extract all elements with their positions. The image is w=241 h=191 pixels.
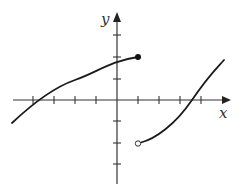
closed-endpoint-dot <box>135 54 141 60</box>
x-axis-arrow-icon <box>222 96 231 104</box>
x-axis-label: x <box>219 104 228 122</box>
left-curve <box>12 57 138 123</box>
right-curve <box>141 60 224 143</box>
open-endpoint-circle <box>135 141 140 146</box>
y-axis-arrow-icon <box>113 12 121 22</box>
function-graph: y x <box>0 0 241 191</box>
y-axis-label: y <box>100 10 110 28</box>
